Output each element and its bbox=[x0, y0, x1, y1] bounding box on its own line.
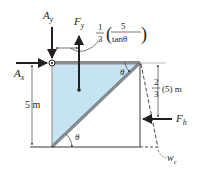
svg-text:3: 3 bbox=[98, 34, 103, 44]
svg-text:(5) m: (5) m bbox=[162, 84, 182, 94]
fy-label: Fy bbox=[73, 15, 85, 30]
svg-text:1: 1 bbox=[98, 22, 103, 32]
fh-moment-arm-label: 2 3 (5) m bbox=[152, 77, 182, 99]
height-label: 5 m bbox=[25, 99, 41, 110]
fh-label: Fh bbox=[175, 112, 187, 127]
water-weight-label: wc bbox=[167, 152, 178, 166]
theta-bottom-label: θ bbox=[75, 132, 80, 142]
svg-text:2: 2 bbox=[154, 77, 159, 87]
svg-text:): ) bbox=[141, 24, 147, 45]
theta-bottom-arc bbox=[66, 134, 72, 147]
svg-text:3: 3 bbox=[154, 89, 159, 99]
svg-text:5: 5 bbox=[121, 21, 126, 31]
ay-label: Ay bbox=[42, 9, 54, 24]
free-body-diagram: Ay Ax Fy Fh 1 3 ( 5 tanθ ) 2 3 (5) m 5 m… bbox=[0, 0, 197, 174]
fy-point bbox=[77, 88, 81, 92]
fy-moment-arm-label: 1 3 ( 5 tanθ ) bbox=[96, 21, 147, 45]
ax-label: Ax bbox=[13, 67, 25, 82]
theta-top-label: θ bbox=[120, 67, 125, 77]
svg-text:tanθ: tanθ bbox=[112, 34, 127, 44]
